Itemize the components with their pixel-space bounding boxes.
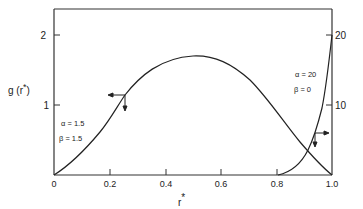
curve1-alpha-label: α = 1.5 <box>61 119 84 128</box>
plot-frame <box>54 9 332 175</box>
right-tick-10: 10 <box>335 100 347 111</box>
x-tick-0.6: 0.6 <box>215 179 228 189</box>
curve-alpha-20-beta-0 <box>278 35 332 175</box>
x-axis-ticks <box>110 169 277 175</box>
curve-alpha-1.5-beta-1.5 <box>54 56 332 175</box>
left-tick-2: 2 <box>40 30 46 41</box>
beta-distribution-chart: 2 1 20 10 0 0.2 0.4 0.6 0.8 1.0 g (r*) r… <box>0 0 363 209</box>
right-arrow-marker <box>313 131 329 147</box>
left-axis-ticks <box>54 35 60 105</box>
curve1-beta-label: β = 1.5 <box>59 134 82 143</box>
right-tick-20: 20 <box>335 30 347 41</box>
x-tick-0.2: 0.2 <box>104 179 117 189</box>
curve2-beta-label: β = 0 <box>294 85 311 94</box>
x-tick-0.4: 0.4 <box>160 179 173 189</box>
x-tick-1.0: 1.0 <box>326 179 339 189</box>
x-tick-0: 0 <box>51 179 56 189</box>
y-axis-label: g (r*) <box>8 82 30 96</box>
x-tick-0.8: 0.8 <box>271 179 284 189</box>
curve2-alpha-label: α = 20 <box>295 70 316 79</box>
x-axis-label: r* <box>178 192 185 208</box>
left-tick-1: 1 <box>43 100 49 111</box>
